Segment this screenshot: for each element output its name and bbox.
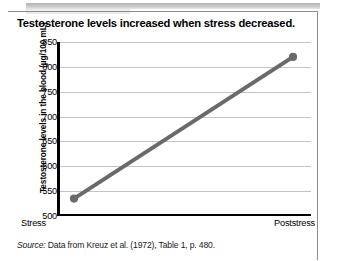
- source-text: Data from Kreuz et al. (1972), Table 1, …: [46, 240, 215, 250]
- x-axis-category-poststress: Poststress: [274, 218, 315, 228]
- figure-frame-top-rule: [8, 11, 318, 12]
- source-note: Source: Data from Kreuz et al. (1972), T…: [17, 240, 215, 250]
- y-tick-label: 800: [30, 62, 57, 72]
- y-tick-label: 600: [30, 161, 57, 171]
- y-axis-tick-labels: 500550600650700750800850: [30, 42, 57, 216]
- chart-axes: [57, 42, 311, 216]
- figure-frame-right-rule: [317, 11, 318, 260]
- data-point-marker: [70, 195, 78, 203]
- y-tick-label: 750: [30, 87, 57, 97]
- y-tick-label: 550: [30, 186, 57, 196]
- x-axis-category-stress: Stress: [21, 218, 46, 228]
- figure-page: Testosterone levels increased when stres…: [0, 0, 339, 261]
- series-polyline: [74, 57, 293, 199]
- chart-plot-area: Testosterone levels in the blood (µg/100…: [17, 42, 313, 224]
- y-tick-label: 650: [30, 136, 57, 146]
- data-point-marker: [289, 53, 297, 61]
- y-tick-label: 850: [30, 37, 57, 47]
- data-series-line: [57, 42, 311, 216]
- source-label: Source:: [17, 240, 46, 250]
- figure-title: Testosterone levels increased when stres…: [17, 17, 309, 30]
- y-tick-label: 700: [30, 112, 57, 122]
